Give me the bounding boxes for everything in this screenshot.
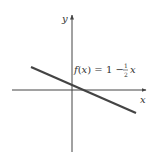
fraction-denominator: 2: [124, 71, 128, 78]
y-axis-label: y: [61, 13, 68, 24]
function-variable: x: [130, 64, 136, 75]
fraction-numerator: 1: [124, 62, 128, 69]
x-axis-label: x: [140, 94, 146, 105]
function-label: f(x) = 1 − 1 2 x: [73, 62, 136, 78]
svg-text:f(x) = 1 −: f(x) = 1 −: [73, 64, 124, 75]
function-graph: y x f(x) = 1 − 1 2 x: [0, 0, 157, 157]
